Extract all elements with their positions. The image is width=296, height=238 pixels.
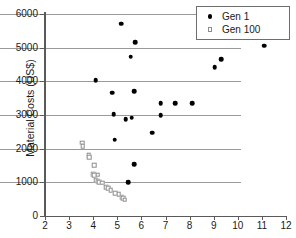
- y-tick-mark-5000: [40, 48, 45, 49]
- data-point-gen-1-19: [126, 180, 131, 185]
- y-tick-label-0: 0: [32, 211, 38, 221]
- data-point-gen-1-12: [158, 113, 163, 118]
- data-point-gen-1-14: [111, 112, 116, 117]
- data-point-gen-1-11: [190, 101, 195, 106]
- legend: Gen 1 Gen 100: [196, 6, 290, 40]
- open-square-icon: [203, 27, 217, 32]
- x-tick-label-7: 7: [163, 221, 169, 231]
- data-point-gen-1-3: [262, 43, 267, 48]
- data-point-gen-1-2: [128, 54, 133, 59]
- x-tick-label-6: 6: [139, 221, 145, 231]
- y-tick-mark-6000: [40, 14, 45, 15]
- x-tick-label-12: 12: [280, 221, 291, 231]
- x-tick-label-9: 9: [211, 221, 217, 231]
- data-point-gen-1-6: [93, 78, 98, 83]
- data-point-gen-1-4: [219, 57, 224, 62]
- x-tick-label-2: 2: [42, 221, 48, 231]
- data-point-gen-100-3: [87, 155, 92, 160]
- filled-circle-icon: [203, 14, 217, 18]
- data-point-gen-1-9: [158, 101, 163, 106]
- x-tick-label-3: 3: [66, 221, 72, 231]
- data-point-gen-1-13: [129, 115, 134, 120]
- y-tick-mark-0: [40, 216, 45, 217]
- data-point-gen-100-7: [95, 172, 100, 177]
- x-tick-label-11: 11: [257, 221, 267, 231]
- data-point-gen-1-10: [173, 101, 178, 106]
- data-point-gen-100-1: [81, 144, 86, 149]
- y-tick-mark-3000: [40, 115, 45, 116]
- legend-item-gen-100: Gen 100: [203, 23, 284, 36]
- legend-label-gen-1: Gen 1: [222, 12, 249, 22]
- data-point-gen-1-18: [132, 162, 137, 167]
- data-point-gen-1-7: [132, 89, 137, 94]
- data-point-gen-1-15: [123, 117, 128, 122]
- x-tick-label-8: 8: [187, 221, 193, 231]
- y-axis-title: Material Costs (US$): [12, 0, 26, 216]
- data-point-gen-1-8: [110, 90, 115, 95]
- x-tick-label-5: 5: [115, 221, 121, 231]
- scatter-chart: 0100020003000400050006000 23456789101112…: [0, 0, 296, 238]
- data-point-gen-1-16: [150, 130, 155, 135]
- x-tick-label-4: 4: [90, 221, 96, 231]
- data-point-gen-1-0: [119, 21, 124, 26]
- data-point-gen-1-17: [113, 137, 118, 142]
- data-point-gen-100-19: [122, 198, 127, 203]
- y-axis-title-text: Material Costs (US$): [24, 43, 36, 173]
- legend-label-gen-100: Gen 100: [222, 25, 260, 35]
- data-point-gen-100-4: [92, 163, 97, 168]
- data-point-gen-1-1: [133, 40, 138, 45]
- y-tick-mark-2000: [40, 149, 45, 150]
- data-point-gen-1-5: [213, 65, 218, 70]
- y-tick-mark-4000: [40, 81, 45, 82]
- x-tick-label-10: 10: [232, 221, 243, 231]
- legend-item-gen-1: Gen 1: [203, 10, 284, 23]
- y-tick-mark-1000: [40, 182, 45, 183]
